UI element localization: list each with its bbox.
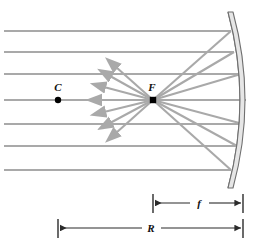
focal-point: [150, 97, 156, 103]
diagram-canvas: C F f R: [0, 0, 259, 243]
center-of-curvature-point: [55, 97, 61, 103]
label-focal-point: F: [147, 81, 156, 93]
label-radius: R: [146, 222, 154, 234]
label-center-of-curvature: C: [54, 81, 62, 93]
optics-diagram: C F f R: [0, 0, 259, 243]
